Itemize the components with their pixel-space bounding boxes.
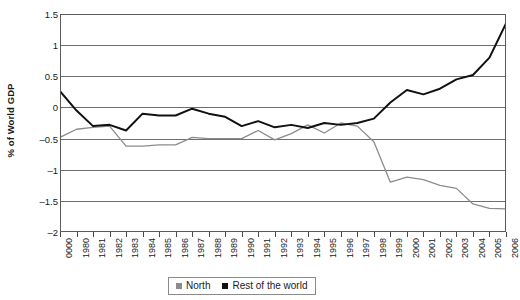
x-tick-label: 1985 — [163, 238, 173, 258]
x-tick-label: 1982 — [114, 238, 124, 258]
x-tick-label: 2002 — [444, 238, 454, 258]
gridlines — [60, 15, 506, 233]
x-tick-label: 1981 — [97, 238, 107, 258]
y-tick-label: 0.5 — [24, 71, 58, 82]
x-tick-label: 2000 — [411, 238, 421, 258]
x-tick-label: 1984 — [147, 238, 157, 258]
x-tick-label: 1986 — [180, 238, 190, 258]
x-tick-label: 1987 — [196, 238, 206, 258]
x-tick-label: 1997 — [361, 238, 371, 258]
legend-label-rest-of-the-world: Rest of the world — [232, 280, 307, 291]
legend-swatch-north — [176, 283, 182, 289]
y-tick-label: –1.5 — [24, 195, 58, 206]
y-tick-label: –1 — [24, 164, 58, 175]
x-tick-label: 1988 — [213, 238, 223, 258]
y-axis-label: % of World GDP — [5, 83, 16, 157]
x-tick-label: 1996 — [345, 238, 355, 258]
series-lines — [60, 23, 506, 209]
x-tick-label: 1990 — [246, 238, 256, 258]
x-tick-label: 1980 — [81, 238, 91, 258]
x-tick-label: 1991 — [262, 238, 272, 258]
x-tick-label: 2005 — [493, 238, 503, 258]
x-tick-label: 1994 — [312, 238, 322, 258]
y-axis-label-wrapper: % of World GDP — [0, 0, 20, 240]
x-tick-label: 1995 — [328, 238, 338, 258]
x-tick-label: 0000 — [64, 238, 74, 258]
x-tick-label: 2004 — [477, 238, 487, 258]
legend-entry-rest-of-the-world: Rest of the world — [222, 280, 307, 291]
legend-swatch-rest-of-the-world — [222, 283, 228, 289]
y-axis-tick-labels: 1.510.50–0.5–1–1.5–2 — [20, 0, 58, 240]
x-tick-label: 1992 — [279, 238, 289, 258]
plot-area — [60, 14, 506, 232]
legend-label-north: North — [186, 280, 210, 291]
y-tick-label: 0 — [24, 102, 58, 113]
y-tick-label: –0.5 — [24, 133, 58, 144]
x-tick-label: 1989 — [229, 238, 239, 258]
x-tick-label: 1993 — [295, 238, 305, 258]
x-tick-label: 2001 — [427, 238, 437, 258]
series-line-north — [60, 123, 506, 209]
y-tick-label: 1.5 — [24, 9, 58, 20]
x-tick-label: 1983 — [130, 238, 140, 258]
plot-border — [61, 15, 506, 232]
plot-svg — [60, 14, 506, 232]
legend-entry-north: North — [176, 280, 210, 291]
x-tick-label: 2003 — [460, 238, 470, 258]
x-tick-label: 1998 — [378, 238, 388, 258]
x-tick-label: 1999 — [394, 238, 404, 258]
chart-legend: North Rest of the world — [168, 277, 316, 295]
y-tick-label: 1 — [24, 40, 58, 51]
x-tick-label: 2006 — [510, 238, 520, 258]
